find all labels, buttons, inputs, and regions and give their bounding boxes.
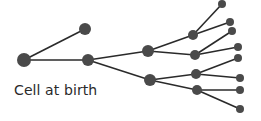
edge-g3c-g4e [196, 58, 238, 74]
cell-node-g1a [79, 23, 91, 35]
cell-node-g4e [234, 54, 242, 62]
cell-node-g4b [226, 18, 234, 26]
cell-node-g3d [192, 85, 202, 95]
cell-at-birth-label: Cell at birth [14, 82, 97, 98]
cell-node-g2a [142, 45, 154, 57]
cell-node-g4a [218, 0, 226, 8]
cell-lineage-tree [0, 0, 261, 121]
cell-node-g4f [236, 74, 244, 82]
cell-node-g3b [190, 50, 200, 60]
cell-node-g3a [188, 30, 198, 40]
edge-g3d-g4h [197, 90, 240, 109]
edge-g2b-g3c [150, 74, 196, 80]
cell-node-g4c [228, 27, 236, 35]
edge-g2a-g3b [148, 51, 195, 55]
edge-root-g1a [24, 29, 85, 60]
cell-node-g2b [144, 74, 156, 86]
cell-node-g1b [82, 54, 94, 66]
edge-g2a-g3a [148, 35, 193, 51]
edge-g3c-g4f [196, 74, 240, 78]
cell-node-g3c [191, 69, 201, 79]
edge-g1b-g2b [88, 60, 150, 80]
cell-node-g4d [234, 43, 242, 51]
edge-g2b-g3d [150, 80, 197, 90]
cell-node-g4g [236, 86, 244, 94]
cell-node-g4h [236, 105, 244, 113]
cell-node-root [17, 53, 31, 67]
edge-g1b-g2a [88, 51, 148, 60]
